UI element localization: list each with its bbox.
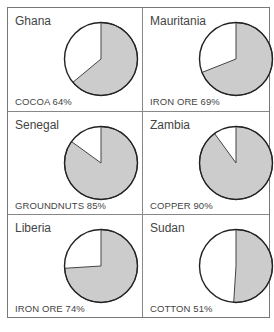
commodity-label: COCOA 64% (15, 96, 72, 107)
country-name: Ghana (15, 14, 51, 28)
panel-zambia: Zambia COPPER 90% (143, 112, 274, 215)
pie-chart (63, 21, 139, 97)
commodity-label: COPPER 90% (150, 200, 213, 211)
country-name: Liberia (15, 221, 51, 235)
commodity-label: IRON ORE 74% (15, 303, 85, 314)
country-name: Senegal (15, 118, 59, 132)
panel-ghana: Ghana COCOA 64% (8, 8, 142, 111)
panel-sudan: Sudan COTTON 51% (143, 215, 274, 318)
pie-chart (198, 125, 274, 201)
country-name: Sudan (150, 221, 185, 235)
commodity-label: GROUNDNUTS 85% (15, 200, 106, 211)
pie-chart (63, 228, 139, 304)
pie-chart (198, 21, 274, 97)
pie-slice (234, 230, 273, 303)
pie-chart-grid: Ghana COCOA 64% Mauritania IRON ORE 69% … (7, 7, 270, 318)
panel-senegal: Senegal GROUNDNUTS 85% (8, 112, 142, 215)
panel-mauritania: Mauritania IRON ORE 69% (143, 8, 274, 111)
commodity-label: COTTON 51% (150, 303, 213, 314)
pie-chart (198, 228, 274, 304)
commodity-label: IRON ORE 69% (150, 96, 220, 107)
country-name: Zambia (150, 118, 190, 132)
panel-liberia: Liberia IRON ORE 74% (8, 215, 142, 318)
pie-chart (63, 125, 139, 201)
